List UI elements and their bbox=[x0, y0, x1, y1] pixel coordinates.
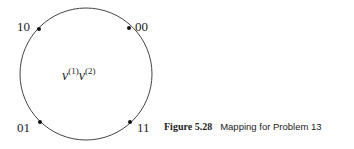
point-label-01: 01 bbox=[17, 121, 30, 134]
point-label-00: 00 bbox=[135, 20, 148, 33]
point-label-11: 11 bbox=[137, 121, 150, 134]
point-00 bbox=[127, 26, 131, 30]
point-label-10: 10 bbox=[17, 20, 30, 33]
point-01 bbox=[38, 120, 42, 124]
figure-caption: Figure 5.28Mapping for Problem 13 bbox=[164, 121, 322, 132]
caption-text: Mapping for Problem 13 bbox=[220, 121, 321, 132]
point-11 bbox=[128, 120, 132, 124]
point-10 bbox=[37, 27, 41, 31]
figure-number: Figure 5.28 bbox=[164, 121, 212, 132]
center-label: v(1)v(2) bbox=[62, 66, 95, 84]
